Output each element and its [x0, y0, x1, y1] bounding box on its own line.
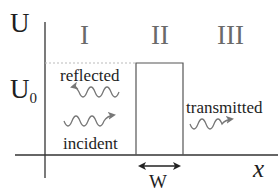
reflected-label: reflected — [60, 67, 119, 84]
reflected-wave-arrow — [72, 87, 119, 97]
region-i-label: I — [80, 22, 89, 49]
potential-barrier — [136, 63, 183, 155]
width-label: W — [149, 172, 167, 191]
transmitted-wave-arrow — [190, 119, 232, 129]
region-ii-label: II — [151, 22, 169, 49]
potential-barrier-diagram: U U0 x I II III reflected incident trans… — [0, 0, 278, 195]
u0-label-subscript: 0 — [30, 90, 38, 106]
incident-wave-arrow — [64, 115, 114, 126]
x-axis-label: x — [253, 156, 264, 181]
y-axis-label: U — [10, 10, 30, 37]
u0-label-main: U — [10, 74, 30, 104]
region-iii-label: III — [217, 22, 244, 49]
u0-label: U0 — [10, 76, 37, 106]
transmitted-label: transmitted — [186, 99, 262, 116]
incident-label: incident — [63, 135, 118, 152]
